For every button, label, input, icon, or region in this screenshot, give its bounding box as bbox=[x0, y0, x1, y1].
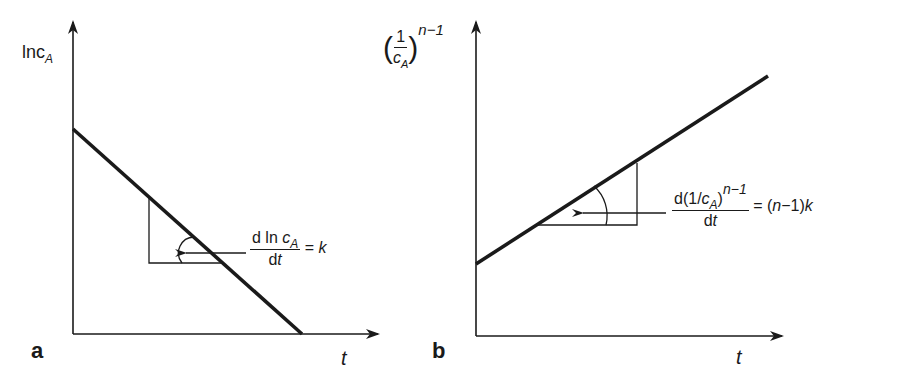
result-mid-b: −1) bbox=[781, 197, 805, 214]
panel-a bbox=[73, 22, 378, 334]
y-axis-fraction-b: 1cA bbox=[393, 28, 408, 68]
x-axis-label-a: t bbox=[341, 347, 347, 370]
slope-fraction-b: d(1/cA)n−1 dt bbox=[672, 184, 749, 230]
result-n-b: n bbox=[772, 197, 781, 214]
panel-label-b: b bbox=[432, 338, 445, 364]
y-axis-exponent-b: n−1 bbox=[418, 21, 443, 38]
fraction-numerator-a: d ln cA bbox=[250, 229, 300, 250]
panel-label-a: a bbox=[31, 338, 43, 364]
equals-sign-a: = bbox=[305, 239, 319, 256]
y-axis-label-a-subscript: A bbox=[45, 52, 53, 66]
fraction-denominator-a: dt bbox=[268, 250, 281, 269]
y-fraction-numerator-b: 1 bbox=[394, 28, 407, 48]
panel-b bbox=[476, 22, 782, 336]
fraction-numerator-b: d(1/cA)n−1 bbox=[672, 184, 749, 211]
paren-close: ) bbox=[408, 31, 418, 64]
fraction-denominator-b: dt bbox=[704, 211, 717, 230]
y-axis-label-a-base: lnc bbox=[22, 42, 45, 62]
slope-equation-a: d ln cA dt = k bbox=[250, 229, 327, 269]
equals-sign-b: = ( bbox=[753, 197, 772, 214]
result-k-b: k bbox=[805, 197, 813, 214]
slope-equation-b: d(1/cA)n−1 dt = (n−1)k bbox=[672, 184, 813, 230]
y-fraction-denominator-b: cA bbox=[393, 48, 408, 68]
y-axis-label-a: lncA bbox=[22, 42, 53, 63]
slope-fraction-a: d ln cA dt bbox=[250, 229, 300, 269]
increasing-line-b bbox=[476, 76, 768, 264]
y-axis-label-b: (1cA)n−1 bbox=[383, 28, 444, 68]
paren-open: ( bbox=[383, 31, 393, 64]
result-k-a: k bbox=[319, 239, 327, 256]
angle-arc-b bbox=[594, 186, 607, 225]
angle-arc-a bbox=[178, 237, 194, 263]
x-axis-label-b: t bbox=[736, 346, 742, 369]
